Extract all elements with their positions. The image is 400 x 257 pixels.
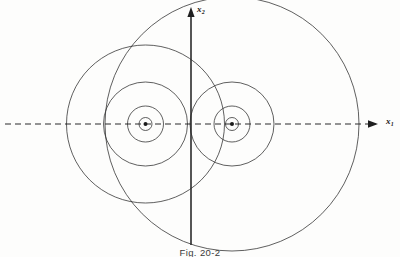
figure-canvas	[0, 0, 400, 257]
left-center-dot	[144, 122, 148, 126]
x2-axis-label-subscript: 2	[202, 9, 205, 15]
x2-axis-arrowhead	[187, 7, 194, 17]
figure-caption: Fig. 20-2	[0, 247, 400, 257]
x2-axis-group	[187, 7, 194, 245]
x2-axis-label: x2	[197, 4, 205, 14]
x1-axis-label: x1	[386, 116, 394, 126]
right-contour-cluster	[105, 0, 359, 251]
x2-axis-label-text: x	[197, 4, 202, 14]
x1-axis-label-text: x	[386, 116, 391, 126]
right-center-dot	[230, 122, 234, 126]
x1-axis-label-subscript: 1	[391, 121, 394, 127]
x1-axis-arrowhead	[368, 120, 378, 128]
figure-container: x2 x1 Fig. 20-2	[0, 0, 400, 257]
